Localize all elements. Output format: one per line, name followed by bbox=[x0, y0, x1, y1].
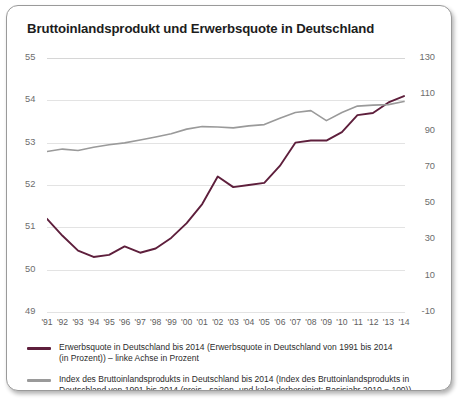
x-axis-tick: '04 bbox=[243, 317, 254, 327]
x-axis-tick: '03 bbox=[228, 317, 239, 327]
series-line bbox=[47, 96, 404, 257]
x-axis-tick: '13 bbox=[383, 317, 394, 327]
x-axis-tick: '91 bbox=[41, 317, 52, 327]
series-line bbox=[47, 102, 404, 152]
x-axis-tick: '97 bbox=[135, 317, 146, 327]
x-axis-tick: '92 bbox=[57, 317, 68, 327]
chart-legend: Erwerbsquote in Deutschland bis 2014 (Er… bbox=[27, 342, 439, 391]
series-svg bbox=[47, 58, 405, 313]
x-axis-tick: '98 bbox=[150, 317, 161, 327]
right-axis-tick: 130 bbox=[409, 52, 435, 62]
chart-title: Bruttoinlandsprodukt und Erwerbsquote in… bbox=[27, 21, 374, 36]
legend-label-line1: Erwerbsquote in Deutschland bis 2014 (Er… bbox=[59, 342, 393, 352]
left-axis-tick: 51 bbox=[25, 221, 43, 231]
x-axis-tick: '08 bbox=[305, 317, 316, 327]
x-axis-tick: '07 bbox=[290, 317, 301, 327]
legend-item-erwerbsquote: Erwerbsquote in Deutschland bis 2014 (Er… bbox=[27, 342, 439, 365]
x-axis-tick: '09 bbox=[321, 317, 332, 327]
left-axis-tick: 53 bbox=[25, 137, 43, 147]
legend-item-bip-index: Index des Bruttoinlandsprodukts in Deuts… bbox=[27, 374, 439, 391]
right-axis-tick: 90 bbox=[409, 125, 435, 135]
x-axis-tick: '06 bbox=[274, 317, 285, 327]
legend-label-line2: Deutschland von 1991 bis 2014 (preis-, s… bbox=[59, 385, 418, 391]
left-axis-tick: 50 bbox=[25, 264, 43, 274]
x-axis-tick: '95 bbox=[103, 317, 114, 327]
left-axis-tick: 54 bbox=[25, 94, 43, 104]
x-axis-labels: '91'92'93'94'95'96'97'98'99'00'01'02'03'… bbox=[25, 317, 435, 331]
right-axis-tick: -10 bbox=[409, 306, 435, 316]
x-axis-tick: '94 bbox=[88, 317, 99, 327]
x-axis-tick: '01 bbox=[197, 317, 208, 327]
x-axis-tick: '02 bbox=[212, 317, 223, 327]
x-axis-tick: '93 bbox=[72, 317, 83, 327]
legend-label-line1: Index des Bruttoinlandsprodukts in Deuts… bbox=[59, 374, 409, 384]
right-axis-tick: 50 bbox=[409, 197, 435, 207]
x-axis-tick: '96 bbox=[119, 317, 130, 327]
left-axis-tick: 55 bbox=[25, 52, 43, 62]
x-axis-tick: '14 bbox=[398, 317, 409, 327]
right-axis-tick: 30 bbox=[409, 233, 435, 243]
series-canvas bbox=[47, 58, 405, 313]
legend-label-line2: (in Prozent)) – linke Achse in Prozent bbox=[59, 353, 199, 363]
chart-card: Bruttoinlandsprodukt und Erwerbsquote in… bbox=[6, 5, 452, 391]
legend-key-bip-index bbox=[27, 379, 51, 382]
left-axis-tick: 52 bbox=[25, 179, 43, 189]
x-axis-tick: '00 bbox=[181, 317, 192, 327]
legend-key-erwerbsquote bbox=[27, 347, 51, 350]
x-axis-tick: '99 bbox=[166, 317, 177, 327]
x-axis-tick: '10 bbox=[336, 317, 347, 327]
plot-area: 55545352515049 1301109070503010-10 bbox=[25, 58, 435, 313]
right-axis-tick: 70 bbox=[409, 161, 435, 171]
right-axis-tick: 10 bbox=[409, 270, 435, 280]
right-axis-tick: 110 bbox=[409, 88, 435, 98]
x-axis-tick: '12 bbox=[367, 317, 378, 327]
x-axis-tick: '05 bbox=[259, 317, 270, 327]
left-axis-tick: 49 bbox=[25, 306, 43, 316]
x-axis-tick: '11 bbox=[352, 317, 363, 327]
